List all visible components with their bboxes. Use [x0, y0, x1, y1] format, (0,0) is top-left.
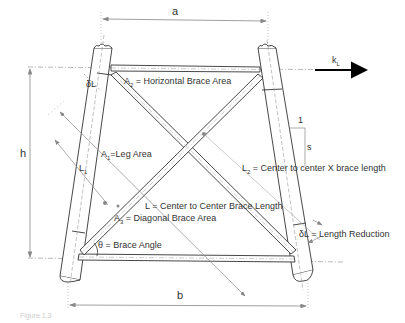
- dimension-b-label: b: [177, 290, 183, 301]
- dimension-h-label: h: [20, 148, 26, 159]
- leg-area-label: A1=Leg Area: [101, 150, 152, 161]
- l1-label: L1: [79, 164, 87, 175]
- brace-angle-label: θ = Brace Angle: [98, 241, 162, 250]
- horizontal-brace-area-label: A2 = Horizontal Brace Area: [124, 77, 231, 88]
- slope-run-label: s: [307, 143, 312, 152]
- delta-l-top-label: δL: [86, 80, 96, 89]
- center-brace-length-label: L = Center to Center Brace Length: [145, 202, 283, 211]
- stiffness-label: kL: [332, 56, 340, 67]
- figure-caption: Figure 1.3: [20, 312, 52, 319]
- dimension-a-label: a: [172, 6, 178, 17]
- diagram-drawing: [0, 0, 405, 323]
- diagonal-brace-area-label: A3 = Diagonal Brace Area: [114, 214, 216, 225]
- x-brace-length-label: L2 = Center to center X brace length: [242, 164, 386, 175]
- slope-rise-label: 1: [298, 116, 303, 125]
- length-reduction-label: δL = Length Reduction: [299, 230, 390, 239]
- braced-tower-diagram: a b h 1 s kL A2 = Horizontal Brace Area …: [0, 0, 405, 323]
